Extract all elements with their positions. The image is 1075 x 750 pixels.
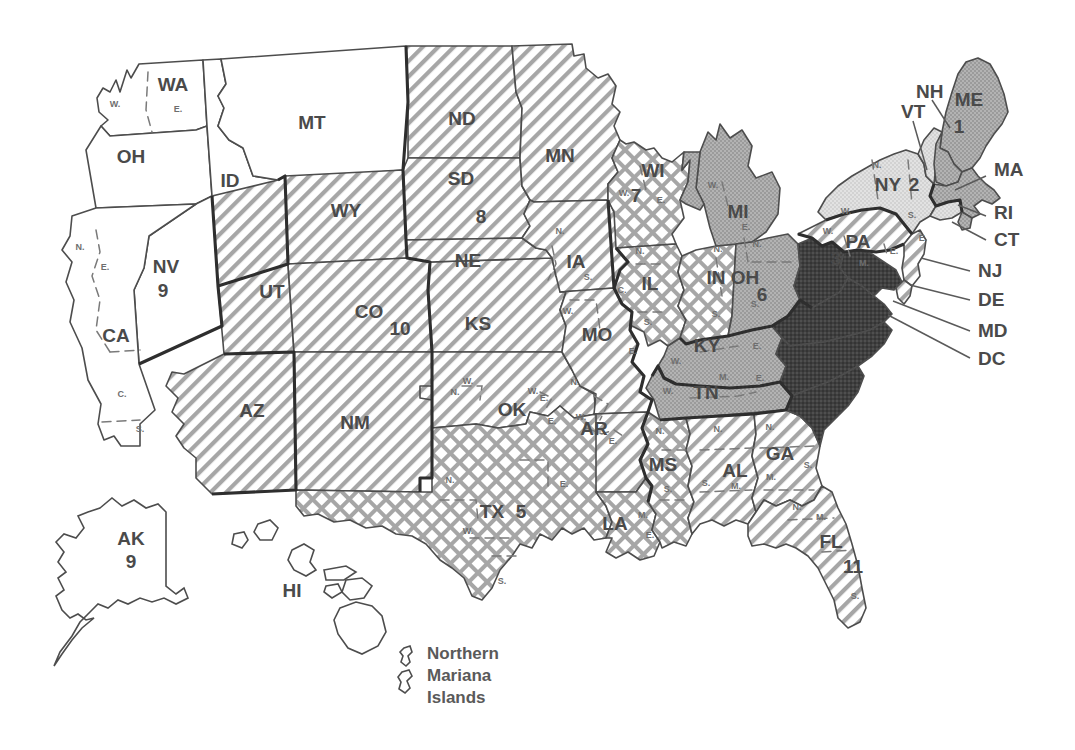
district-mark: M. (638, 510, 648, 520)
state-label-OH: OH (117, 146, 146, 167)
state-label-TX: TX (480, 501, 505, 522)
state-label-NE: NE (455, 250, 481, 271)
circuit-number-3: 3 (831, 248, 842, 269)
district-mark: N. (636, 246, 645, 256)
callout-label-CT: CT (994, 229, 1020, 250)
district-mark: E. (646, 530, 655, 540)
circuit-number-10: 10 (389, 318, 410, 339)
district-mark: M. (816, 512, 826, 522)
state-KS[interactable] (428, 258, 566, 352)
state-label-ME: ME (955, 89, 984, 110)
district-mark: N. (793, 502, 802, 512)
circuit-number-2: 2 (909, 174, 920, 195)
district-mark: W. (619, 188, 630, 198)
district-mark: W. (463, 526, 474, 536)
hi-island-kauai[interactable] (232, 532, 248, 548)
circuit-number-9: 9 (126, 551, 137, 572)
state-label-AZ: AZ (239, 400, 265, 421)
nmi-dot-lower[interactable] (398, 670, 412, 693)
district-mark: N. (714, 244, 723, 254)
district-mark: S. (751, 299, 760, 309)
district-mark: E. (657, 195, 666, 205)
circuit-number-5: 5 (516, 501, 527, 522)
callout-label-NH: NH (916, 81, 943, 102)
circuit-number-8: 8 (476, 206, 487, 227)
district-mark: E. (560, 479, 569, 489)
district-mark: N. (873, 160, 882, 170)
state-label-LA: LA (602, 513, 628, 534)
district-mark: E. (890, 246, 899, 256)
district-mark: E. (756, 373, 765, 383)
state-OR[interactable] (86, 126, 212, 208)
state-IN[interactable] (678, 244, 736, 344)
state-label-NM: NM (340, 412, 370, 433)
district-mark: N. (571, 377, 580, 387)
state-label-TN: TN (693, 382, 718, 403)
district-mark: W. (823, 226, 834, 236)
state-label-OK: OK (498, 399, 527, 420)
state-label-MN: MN (545, 145, 575, 166)
district-mark: W. (528, 386, 539, 396)
northern-mariana-islands-group[interactable] (398, 646, 412, 693)
state-AZ[interactable] (166, 352, 296, 494)
district-mark: M. (766, 472, 776, 482)
district-mark: E. (919, 233, 928, 243)
callout-label-VT: VT (901, 101, 926, 122)
callout-label-DE: DE (978, 289, 1004, 310)
district-mark: M. (731, 481, 741, 491)
state-label-NV: NV (153, 256, 180, 277)
district-mark: W. (671, 356, 682, 366)
northern-mariana-line: Mariana (427, 666, 492, 685)
district-mark: M. (719, 372, 729, 382)
state-WA[interactable] (97, 60, 207, 136)
hi-island-maui[interactable] (342, 578, 372, 600)
state-label-WA: WA (158, 74, 189, 95)
state-label-WI: WI (641, 160, 664, 181)
state-label-ID: ID (221, 170, 240, 191)
state-label-MT: MT (298, 112, 326, 133)
circuit-number-9: 9 (158, 280, 169, 301)
nmi-dot-upper[interactable] (400, 646, 412, 666)
us-circuits-map: WAOHIDMTNDSDNEMNWYNVCAUTCOAZNMKSOKTXIAMO… (0, 0, 1075, 750)
state-label-AK: AK (117, 528, 145, 549)
district-mark: E. (609, 436, 618, 446)
state-label-HI: HI (283, 580, 302, 601)
district-mark: S. (702, 478, 711, 488)
district-mark: E. (101, 262, 110, 272)
district-mark: S. (136, 424, 145, 434)
hawaii-group[interactable] (232, 520, 386, 654)
district-mark: N. (766, 422, 775, 432)
district-mark: N. (76, 242, 85, 252)
hi-island-oahu[interactable] (288, 544, 316, 576)
state-label-ND: ND (448, 108, 475, 129)
state-label-AL: AL (722, 460, 748, 481)
circuit-number-11: 11 (843, 556, 864, 577)
state-AK[interactable] (54, 498, 188, 666)
callout-label-RI: RI (994, 202, 1013, 223)
hi-island-niihau[interactable] (254, 520, 278, 540)
map-canvas: WAOHIDMTNDSDNEMNWYNVCAUTCOAZNMKSOKTXIAMO… (0, 0, 1075, 750)
district-mark: N. (753, 239, 762, 249)
callout-leader-DC (888, 315, 970, 358)
state-ND[interactable] (406, 46, 522, 158)
state-label-KS: KS (465, 313, 491, 334)
alaska-group[interactable] (54, 498, 188, 666)
callout-label-NJ: NJ (978, 260, 1002, 281)
state-label-IL: IL (642, 273, 659, 294)
circuit-number-1: 1 (954, 116, 965, 137)
district-mark: E. (174, 104, 183, 114)
state-label-IA: IA (567, 251, 586, 272)
callout-leader-MD (893, 301, 970, 331)
hi-island-hawaii[interactable] (334, 602, 386, 654)
circuit-number-7: 7 (631, 185, 642, 206)
district-mark: W. (576, 412, 587, 422)
hi-island-molokai[interactable] (324, 566, 356, 580)
callout-leader-NJ (921, 258, 970, 271)
state-MN[interactable] (512, 44, 620, 202)
district-mark: C. (618, 285, 627, 295)
state-label-KY: KY (694, 335, 721, 356)
district-mark: E. (540, 393, 549, 403)
hi-island-lanai[interactable] (324, 584, 342, 598)
district-mark: S. (908, 210, 917, 220)
district-mark: W. (563, 306, 574, 316)
